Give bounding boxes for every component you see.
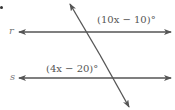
line-s-label: s [10, 72, 15, 82]
problem-bullet [0, 6, 3, 9]
angle-label-top: (10x − 10)° [97, 15, 156, 25]
angle-label-bottom: (4x − 20)° [46, 64, 98, 74]
line-r-label: r [9, 26, 14, 36]
parallel-lines-diagram: r s (10x − 10)° (4x − 20)° [0, 0, 175, 110]
